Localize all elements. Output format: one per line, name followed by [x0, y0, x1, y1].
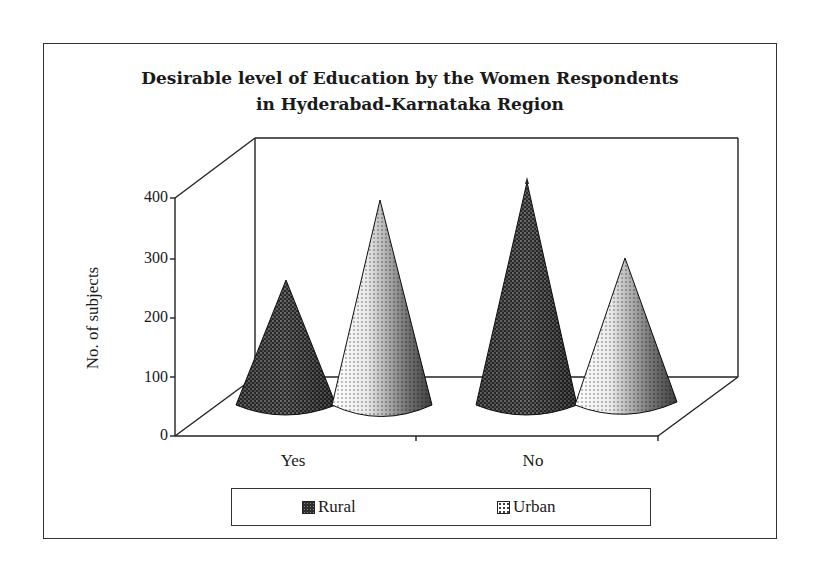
rural-swatch-icon	[302, 501, 315, 514]
x-category-no: No	[523, 451, 544, 471]
legend-item-rural: Rural	[302, 497, 356, 517]
x-category-yes: Yes	[281, 451, 306, 471]
legend-label-urban: Urban	[513, 497, 555, 517]
legend-item-urban: Urban	[497, 497, 555, 517]
cone-rural-no	[476, 177, 577, 415]
legend: Rural Urban	[231, 488, 651, 526]
cone-urban-no	[575, 258, 677, 414]
cone-urban-yes	[332, 200, 432, 417]
legend-label-rural: Rural	[318, 497, 356, 517]
cone-rural-yes	[236, 280, 336, 415]
urban-swatch-icon	[497, 501, 510, 514]
